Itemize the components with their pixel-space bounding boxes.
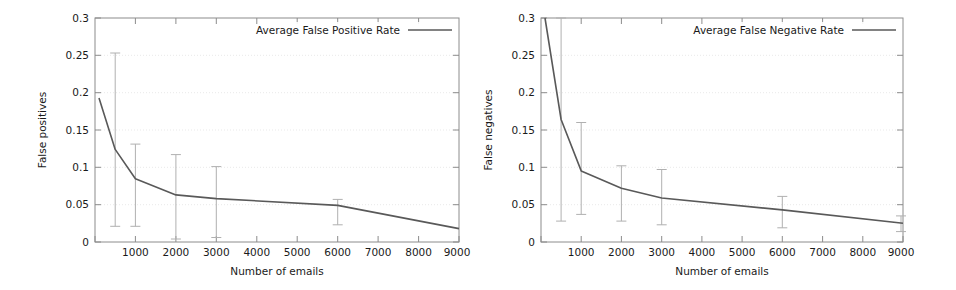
x-tick-label: 9000 bbox=[888, 246, 915, 258]
x-tick-label: 1000 bbox=[568, 246, 595, 258]
legend: Average False Positive Rate bbox=[256, 22, 455, 39]
x-tick-label: 2000 bbox=[608, 246, 635, 258]
y-tick-labels: 0 0.05 0.1 0.15 0.2 0.25 0.3 bbox=[512, 12, 535, 248]
legend-label: Average False Negative Rate bbox=[693, 24, 844, 36]
legend: Average False Negative Rate bbox=[693, 22, 899, 39]
x-tick-label: 2000 bbox=[163, 246, 190, 258]
x-axis-title: Number of emails bbox=[230, 265, 323, 277]
x-tick-labels: 1000 2000 3000 4000 5000 6000 7000 8000 … bbox=[122, 246, 470, 258]
y-axis-title: False negatives bbox=[482, 89, 494, 170]
y-tick-labels: 0 0.05 0.1 0.15 0.2 0.25 0.3 bbox=[66, 12, 89, 248]
x-tick-label: 6000 bbox=[324, 246, 351, 258]
y-tick-label: 0 bbox=[528, 236, 535, 248]
y-tick-label: 0.2 bbox=[518, 86, 535, 98]
y-tick-label: 0 bbox=[82, 236, 89, 248]
grid-lines bbox=[95, 55, 459, 204]
legend-label: Average False Positive Rate bbox=[256, 24, 400, 36]
y-tick-label: 0.05 bbox=[66, 198, 89, 210]
x-tick-label: 3000 bbox=[648, 246, 675, 258]
y-tick-label: 0.15 bbox=[512, 124, 535, 136]
x-tick-label: 7000 bbox=[809, 246, 836, 258]
panel-false-negatives: Average False Negative Rate 0 0.05 0.1 0… bbox=[478, 0, 956, 290]
x-axis-title: Number of emails bbox=[675, 265, 768, 277]
false-negative-rate-chart: Average False Negative Rate 0 0.05 0.1 0… bbox=[478, 0, 956, 290]
y-tick-label: 0.25 bbox=[66, 49, 89, 61]
x-tick-label: 4000 bbox=[689, 246, 716, 258]
panel-false-positives: Average False Positive Rate 0 0.05 0.1 0… bbox=[0, 0, 478, 290]
x-tick-label: 3000 bbox=[203, 246, 230, 258]
y-tick-label: 0.2 bbox=[72, 86, 89, 98]
x-tick-label: 9000 bbox=[444, 246, 471, 258]
x-tick-label: 1000 bbox=[122, 246, 149, 258]
x-tick-label: 5000 bbox=[729, 246, 756, 258]
x-tick-labels: 1000 2000 3000 4000 5000 6000 7000 8000 … bbox=[568, 246, 915, 258]
two-panel-figure: Average False Positive Rate 0 0.05 0.1 0… bbox=[0, 0, 956, 290]
y-tick-label: 0.05 bbox=[512, 198, 535, 210]
y-tick-label: 0.1 bbox=[72, 161, 89, 173]
x-tick-label: 8000 bbox=[849, 246, 876, 258]
x-tick-label: 5000 bbox=[284, 246, 311, 258]
data-line bbox=[545, 18, 903, 223]
y-tick-label: 0.25 bbox=[512, 49, 535, 61]
y-tick-label: 0.3 bbox=[72, 12, 89, 24]
x-tick-label: 7000 bbox=[365, 246, 392, 258]
error-bars bbox=[110, 53, 343, 239]
y-tick-label: 0.3 bbox=[518, 12, 535, 24]
y-axis-title: False positives bbox=[36, 92, 48, 168]
grid-lines bbox=[541, 55, 903, 204]
error-bars bbox=[556, 18, 906, 232]
y-tick-label: 0.1 bbox=[518, 161, 535, 173]
false-positive-rate-chart: Average False Positive Rate 0 0.05 0.1 0… bbox=[0, 0, 478, 290]
y-tick-label: 0.15 bbox=[66, 124, 89, 136]
x-tick-label: 4000 bbox=[243, 246, 270, 258]
x-tick-label: 6000 bbox=[769, 246, 796, 258]
x-tick-label: 8000 bbox=[405, 246, 432, 258]
data-line bbox=[99, 98, 459, 229]
